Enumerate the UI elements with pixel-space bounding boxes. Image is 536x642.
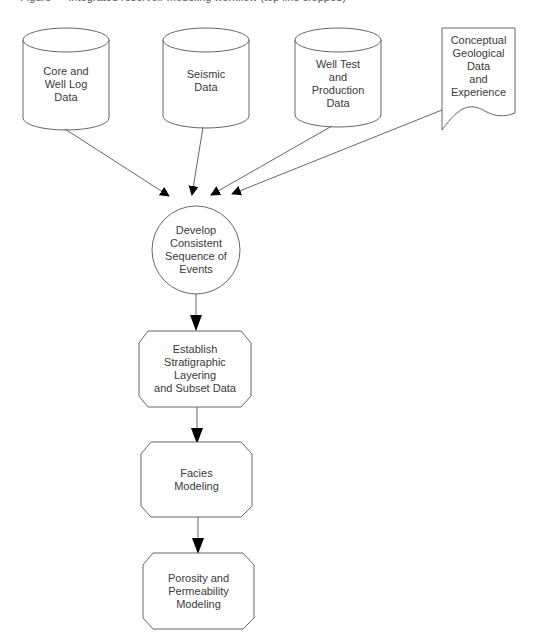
edges-inputs [65, 110, 442, 196]
label-core: Core and Well Log Data [23, 52, 109, 116]
label-conceptual: Conceptual Geological Data and Experienc… [442, 30, 515, 102]
label-well-test: Well Test and Production Data [295, 52, 381, 116]
label-seismic: Seismic Data [163, 52, 249, 110]
label-facies: Facies Modeling [141, 442, 252, 517]
label-sequence: Develop Consistent Sequence of Events [152, 218, 240, 282]
cropped-caption: Figure — Integrated reservoir modeling w… [20, 0, 346, 3]
label-stratigraphic: Establish Stratigraphic Layering and Sub… [139, 331, 251, 407]
label-porosity: Porosity and Permeability Modeling [143, 553, 254, 629]
